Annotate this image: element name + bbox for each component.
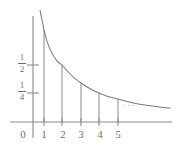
ellipsis-annotation: ···: [123, 101, 135, 110]
x-label-0: 0: [16, 129, 30, 140]
y-label-one-quarter-numerator: 1: [14, 81, 30, 90]
x-label-1: 1: [37, 129, 51, 140]
math-plot-figure: 1 2 1 4 0 1 2 3 4 5 ···: [0, 0, 186, 152]
x-label-5: 5: [111, 129, 125, 140]
x-label-3: 3: [74, 129, 88, 140]
curve-one-over-x: [40, 10, 171, 108]
x-label-2: 2: [56, 129, 70, 140]
x-label-4: 4: [93, 129, 107, 140]
y-label-one-half-numerator: 1: [14, 53, 30, 62]
y-label-one-quarter: 1 4: [14, 81, 30, 103]
y-label-one-half: 1 2: [14, 53, 30, 75]
y-label-one-half-denominator: 2: [14, 65, 30, 74]
y-label-one-quarter-denominator: 4: [14, 93, 30, 102]
